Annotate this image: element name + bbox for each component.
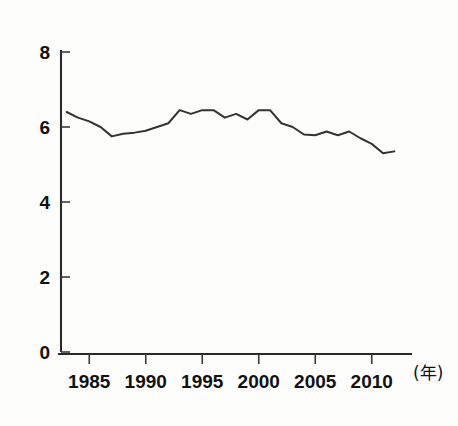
y-tick-label: 6 [39, 117, 50, 138]
x-tick-label: 1990 [125, 371, 167, 392]
x-tick-label: 1985 [68, 371, 111, 392]
line-chart: 02468 198519901995200020052010 (年) [0, 0, 458, 426]
x-tick-label: 1995 [181, 371, 224, 392]
y-tick-label: 0 [39, 342, 50, 363]
x-tick-label: 2000 [238, 371, 280, 392]
x-tick-label: 2010 [351, 371, 393, 392]
y-tick-label: 4 [39, 192, 50, 213]
y-tick-label: 2 [39, 267, 50, 288]
y-tick-label: 8 [39, 42, 50, 63]
x-axis-ticks [89, 354, 372, 364]
x-tick-label: 2005 [294, 371, 337, 392]
y-axis-tick-labels: 02468 [39, 42, 50, 363]
chart-container: 02468 198519901995200020052010 (年) [0, 0, 458, 426]
y-axis: 02468 [39, 42, 70, 363]
x-axis-tick-labels: 198519901995200020052010 [68, 371, 393, 392]
x-axis-unit-label: (年) [413, 363, 443, 383]
data-series-line [67, 110, 395, 153]
x-axis: 198519901995200020052010 (年) [58, 354, 443, 392]
y-axis-ticks [61, 52, 70, 352]
